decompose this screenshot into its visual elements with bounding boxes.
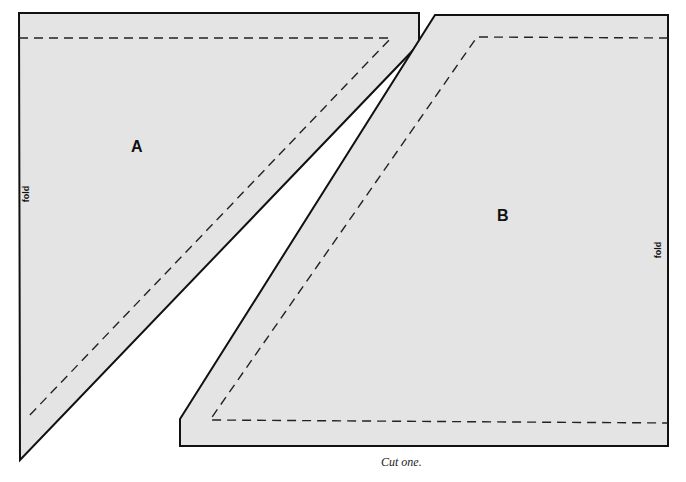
piece-a-label: A: [131, 138, 143, 156]
pattern-diagram: [0, 0, 686, 482]
cut-instruction: Cut one.: [381, 455, 422, 470]
fold-label-a: fold: [21, 186, 31, 203]
piece-b-label: B: [497, 207, 509, 225]
fold-label-b: fold: [653, 242, 663, 259]
